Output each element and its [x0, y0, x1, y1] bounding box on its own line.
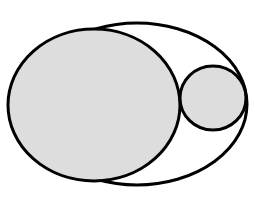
tangent-shapes-diagram [0, 0, 260, 216]
small-shaded-circle [180, 66, 246, 130]
large-shaded-ellipse [8, 29, 180, 181]
